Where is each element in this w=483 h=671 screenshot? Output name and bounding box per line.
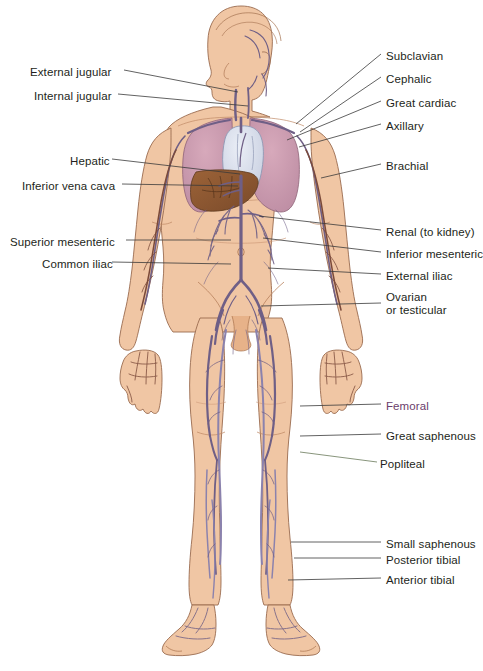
- label-external-jugular: External jugular: [30, 66, 112, 79]
- label-ovarian-testicular: Ovarianor testicular: [386, 291, 447, 317]
- label-text: Small saphenous: [386, 538, 476, 551]
- label-text: Posterior tibial: [386, 554, 460, 567]
- label-inferior-vena-cava: Inferior vena cava: [22, 180, 115, 193]
- label-text: Popliteal: [380, 458, 425, 471]
- label-superior-mesenteric: Superior mesenteric: [10, 236, 115, 249]
- label-text: Subclavian: [386, 50, 443, 63]
- label-internal-jugular: Internal jugular: [34, 90, 112, 103]
- left-hand: [120, 350, 162, 413]
- label-text-line2: or testicular: [386, 304, 447, 317]
- label-text: External iliac: [386, 270, 453, 283]
- head-outline: [206, 6, 272, 117]
- label-great-cardiac: Great cardiac: [386, 97, 456, 110]
- label-renal: Renal (to kidney): [386, 226, 475, 239]
- label-text: Anterior tibial: [386, 574, 455, 587]
- right-foot: [266, 605, 320, 656]
- label-external-iliac: External iliac: [386, 270, 453, 283]
- right-arm-outline: [311, 128, 363, 350]
- label-brachial: Brachial: [386, 160, 428, 173]
- label-text: Great saphenous: [386, 430, 476, 443]
- label-text: Brachial: [386, 160, 428, 173]
- label-text: Renal (to kidney): [386, 226, 475, 239]
- label-posterior-tibial: Posterior tibial: [386, 554, 460, 567]
- label-text: Ovarian: [386, 291, 447, 304]
- label-small-saphenous: Small saphenous: [386, 538, 476, 551]
- label-anterior-tibial: Anterior tibial: [386, 574, 455, 587]
- label-text: Inferior mesenteric: [386, 248, 483, 261]
- label-femoral: Femoral: [386, 400, 429, 413]
- label-cephalic: Cephalic: [386, 73, 432, 86]
- label-popliteal: Popliteal: [380, 458, 425, 471]
- label-hepatic: Hepatic: [70, 155, 110, 168]
- right-hand: [320, 350, 362, 413]
- label-text: Great cardiac: [386, 97, 456, 110]
- left-foot: [162, 605, 216, 656]
- label-text: Axillary: [386, 120, 424, 133]
- label-common-iliac: Common iliac: [42, 258, 113, 271]
- label-subclavian: Subclavian: [386, 50, 443, 63]
- label-text: Cephalic: [386, 73, 432, 86]
- label-axillary: Axillary: [386, 120, 424, 133]
- label-great-saphenous: Great saphenous: [386, 430, 476, 443]
- label-inferior-mesenteric: Inferior mesenteric: [386, 248, 483, 261]
- label-text: Femoral: [386, 400, 429, 413]
